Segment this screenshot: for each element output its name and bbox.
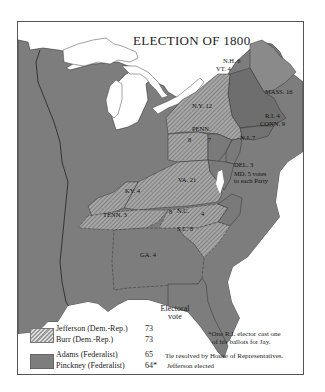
label-nc-rep: 8 <box>169 208 172 215</box>
label-va: VA. 21 <box>178 176 196 183</box>
result-line-2: Jefferson elected <box>167 362 214 371</box>
label-del: DEL. 3 <box>234 161 253 168</box>
label-ny: N.Y. 12 <box>192 102 212 109</box>
label-mass: MASS. 16 <box>265 88 292 95</box>
label-penn: PENN. <box>192 125 211 132</box>
result-line-1: Tie resolved by House of Representatives… <box>165 352 283 361</box>
label-ri: R.I. 4 <box>265 112 280 119</box>
label-ga: GA. 4 <box>140 251 156 258</box>
label-ky: KY. 4 <box>125 187 140 194</box>
footnote-line-2: of his ballots for Jay. <box>212 338 270 347</box>
legend-jefferson-votes: 73 <box>145 324 153 334</box>
label-sc: S.C. 8 <box>177 225 193 232</box>
label-md-2: to each Party <box>234 177 268 184</box>
lake-superior <box>63 38 138 66</box>
label-penn-rep: 8 <box>188 136 191 143</box>
map-graphic <box>18 22 303 374</box>
legend-adams-votes: 65 <box>145 350 153 360</box>
label-tenn: TENN. 3 <box>103 211 127 218</box>
swatch-federalist <box>30 354 54 369</box>
legend-adams: Adams (Federalist) <box>56 350 118 360</box>
label-md-1: MD. 5 votes <box>234 170 266 177</box>
map-title: ELECTION OF 1800 <box>133 33 250 49</box>
lake-huron <box>122 66 168 98</box>
label-conn: CONN. 9 <box>260 120 285 127</box>
label-nc: N.C. <box>177 207 189 214</box>
label-nj: N.J. 7 <box>240 134 255 141</box>
label-penn-fed: 7 <box>208 136 211 143</box>
label-vt: VT. 4 <box>216 65 231 72</box>
map-frame: ELECTION OF 1800 N.H. 6 VT. 4 MASS. 16 N… <box>17 21 304 375</box>
label-nh: N.H. 6 <box>223 57 241 64</box>
legend-burr: Burr (Dem.-Rep.) <box>56 335 113 345</box>
label-nc-fed: 4 <box>201 210 204 217</box>
legend-jefferson: Jefferson (Dem.-Rep.) <box>56 324 128 334</box>
legend-pinckney: Pinckney (Federalist) <box>56 361 125 371</box>
legend-burr-votes: 73 <box>145 335 153 345</box>
legend-heading: Electoral vote <box>155 305 195 321</box>
swatch-democratic-republican <box>30 328 54 343</box>
legend-pinckney-votes: 64* <box>145 361 157 371</box>
